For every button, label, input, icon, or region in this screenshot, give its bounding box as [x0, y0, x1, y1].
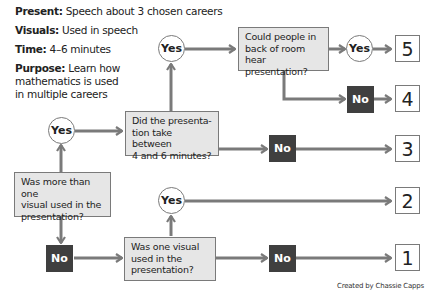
q4-line1: Was one visual — [131, 241, 199, 252]
info-purpose: Purpose: Learn how mathematics is used i… — [15, 62, 120, 101]
q1-line2: visual used in the — [21, 199, 101, 210]
q4-line2: used in the — [131, 253, 182, 264]
no-node-q1: No — [46, 245, 73, 272]
yes-node-q4: Yes — [158, 187, 185, 214]
time-value: 4–6 minutes — [47, 43, 111, 55]
score-5: 5 — [395, 35, 420, 62]
question-more-than-one-visual: Was more than one visual used in the pre… — [14, 172, 111, 217]
question-time-4-to-6: Did the presenta- tion take between 4 an… — [125, 111, 219, 156]
present-value: Speech about 3 chosen careers — [63, 5, 223, 17]
q2-line3: 4 and 6 minutes? — [132, 150, 211, 161]
info-present: Present: Speech about 3 chosen careers — [15, 5, 222, 18]
no-node-q3: No — [347, 86, 374, 113]
yes-node-q2: Yes — [158, 35, 185, 62]
credit-text: Created by Chassie Capps — [337, 282, 424, 290]
purpose-line3: in multiple careers — [15, 88, 107, 100]
q3-line1: Could people in — [245, 31, 316, 42]
q2-line2: tion take between — [132, 127, 172, 150]
yes-node-q1: Yes — [48, 117, 75, 144]
no-node-q4: No — [269, 245, 296, 272]
visuals-label: Visuals: — [15, 24, 59, 36]
time-label: Time: — [15, 43, 47, 55]
purpose-value: Learn how — [65, 62, 120, 74]
question-one-visual: Was one visual used in the presentation? — [124, 237, 216, 281]
score-3: 3 — [395, 135, 420, 162]
q3-line2: back of room hear — [245, 43, 305, 66]
q1-line3: presentation? — [21, 211, 84, 222]
q2-line1: Did the presenta- — [132, 115, 212, 126]
no-node-q2: No — [269, 135, 296, 162]
info-visuals: Visuals: Used in speech — [15, 24, 138, 37]
purpose-label: Purpose: — [15, 62, 65, 74]
score-1: 1 — [395, 244, 420, 271]
q3-line3: presentation? — [245, 66, 308, 77]
q1-line1: Was more than one — [21, 176, 90, 199]
info-time: Time: 4–6 minutes — [15, 43, 111, 56]
score-4: 4 — [395, 85, 420, 112]
question-audible: Could people in back of room hear presen… — [238, 27, 329, 71]
yes-node-q3: Yes — [346, 35, 373, 62]
present-label: Present: — [15, 5, 63, 17]
visuals-value: Used in speech — [59, 24, 138, 36]
score-2: 2 — [395, 187, 420, 214]
q4-line3: presentation? — [131, 264, 194, 275]
purpose-line2: mathematics is used — [15, 75, 118, 87]
